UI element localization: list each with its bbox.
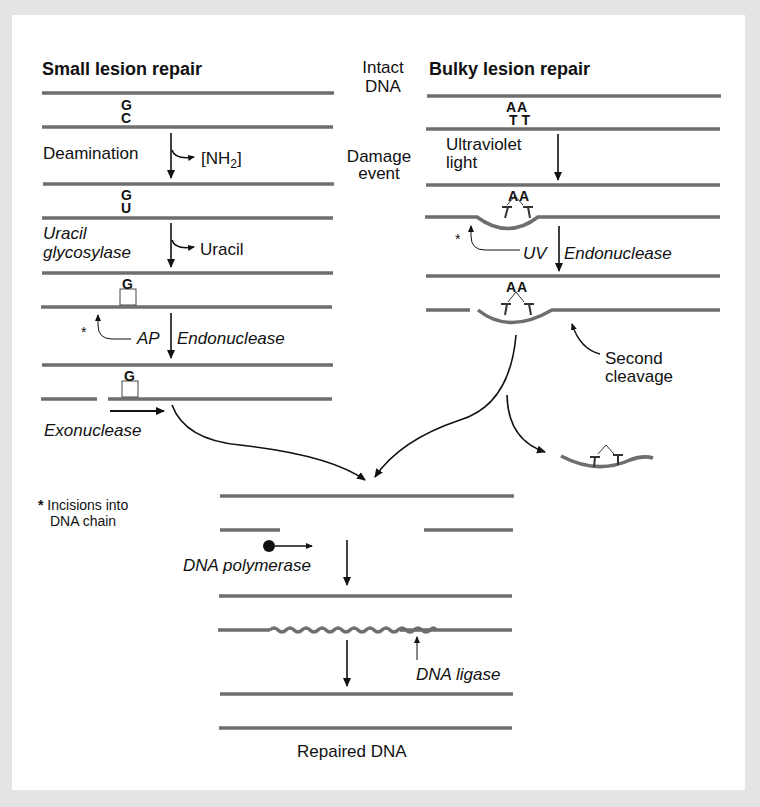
arrow-second-cleavage	[572, 324, 600, 354]
polymerase-dot	[263, 540, 275, 552]
base-g: G	[124, 370, 135, 382]
endonuclease-label: Endonuclease	[177, 329, 285, 348]
incision-star: *	[81, 323, 86, 342]
bases-aa: AA	[506, 281, 528, 293]
second-cleavage-label: Second cleavage	[605, 350, 673, 386]
deamination-label: Deamination	[43, 144, 138, 163]
repaired-dna-label: Repaired DNA	[297, 742, 407, 761]
base-g: G	[122, 278, 133, 290]
exonuclease-label: Exonuclease	[44, 421, 141, 440]
small-lesion-title: Small lesion repair	[42, 60, 202, 79]
uracil-product: Uracil	[200, 240, 243, 259]
arrow-nh2-release	[172, 150, 194, 158]
arrow-fragment-release	[507, 395, 545, 452]
uv-label: UV	[523, 244, 547, 263]
uracil-glycosylase-label: Uracil glycosylase	[43, 224, 131, 262]
endonuclease-label: Endonuclease	[564, 244, 672, 263]
intact-dna-label: Intact DNA	[350, 58, 416, 96]
dna-repair-drawing	[0, 0, 760, 807]
thymine-dimers	[501, 196, 623, 467]
bottom-strands	[218, 496, 514, 728]
ap-label: AP	[137, 329, 160, 348]
arrow-uracil-release	[172, 240, 194, 248]
bulky-lesion-title: Bulky lesion repair	[429, 60, 590, 79]
arrow-incision-left	[98, 315, 131, 339]
bases-tt: TT	[509, 114, 534, 126]
dna-ligase-label: DNA ligase	[416, 665, 500, 684]
base-c: C	[121, 112, 131, 124]
incision-star: *	[455, 230, 460, 249]
ultraviolet-light-label: Ultraviolet light	[446, 136, 522, 172]
arrow-bulky-to-bottom	[375, 335, 516, 477]
damage-event-label: Damage event	[338, 148, 420, 182]
footnote: * Incisions into DNA chain	[38, 497, 128, 529]
dna-polymerase-label: DNA polymerase	[183, 556, 311, 575]
nh2-product: [NH2]	[201, 149, 242, 174]
arrow-small-to-bottom	[172, 405, 365, 480]
base-u: U	[121, 202, 131, 214]
bases-aa: AA	[508, 190, 530, 202]
